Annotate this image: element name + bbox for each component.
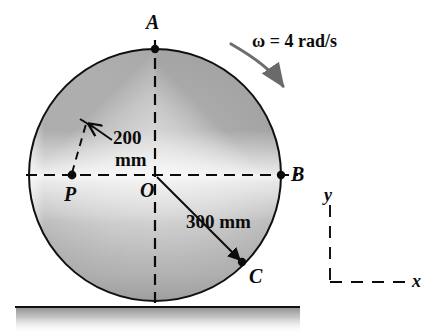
- point-o-label: O: [140, 180, 154, 200]
- ground-surface: [15, 307, 300, 334]
- oc-dimension-label: 300 mm: [186, 212, 251, 231]
- axis-label-y: y: [324, 186, 332, 204]
- diagram-canvas: [0, 0, 436, 335]
- point-p-marker: [68, 171, 77, 180]
- angular-velocity-label: ω = 4 rad/s: [252, 32, 337, 50]
- point-b-marker: [277, 171, 285, 179]
- axes-indicator: [330, 205, 406, 282]
- point-p-label: P: [64, 184, 76, 204]
- point-b-label: B: [291, 164, 304, 184]
- op-dimension-value: 200: [113, 128, 142, 147]
- point-a-marker: [151, 45, 159, 53]
- point-c-marker: [238, 258, 246, 266]
- point-a-label: A: [146, 12, 159, 32]
- axis-label-x: x: [412, 272, 421, 290]
- physics-diagram-figure: A B C P O 200 mm 300 mm ω = 4 rad/s y x: [0, 0, 436, 335]
- op-dimension-unit: mm: [115, 150, 147, 169]
- point-c-label: C: [249, 266, 262, 286]
